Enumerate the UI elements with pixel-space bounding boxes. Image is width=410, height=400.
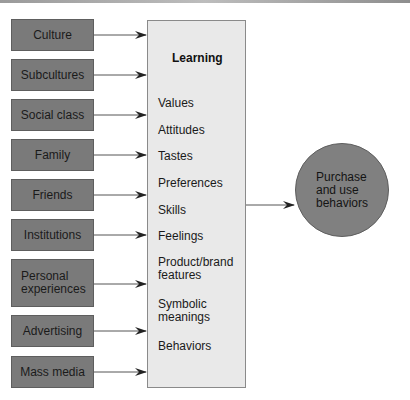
connector-arrows <box>0 0 410 400</box>
